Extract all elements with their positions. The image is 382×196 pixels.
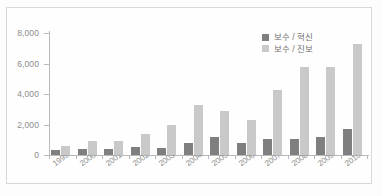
x-axis-tick — [367, 155, 368, 159]
x-axis-tick — [288, 155, 289, 159]
dark-gray-swatch-icon — [262, 34, 269, 41]
plot-area — [49, 33, 367, 155]
x-axis-tick — [155, 155, 156, 159]
y-axis-tick-label: 8,000 — [17, 28, 39, 38]
bar-dark — [157, 148, 166, 155]
bar-dark — [290, 139, 299, 155]
bar-light — [141, 134, 150, 155]
legend-item-light: 보수 / 진보 — [262, 45, 313, 54]
y-axis-tick-label: 2,000 — [17, 120, 39, 130]
legend-item-dark: 보수 / 혁신 — [262, 33, 313, 42]
bar-light — [61, 146, 70, 155]
bar-light — [326, 67, 335, 155]
bar-group — [341, 33, 368, 155]
bar-group — [129, 33, 156, 155]
bar-dark — [263, 139, 272, 155]
bar-light — [220, 111, 229, 155]
bar-light — [273, 90, 282, 155]
x-axis-tick — [129, 155, 130, 159]
bar-light — [247, 120, 256, 155]
bar-dark — [343, 129, 352, 155]
bar-light — [300, 67, 309, 155]
bar-group — [49, 33, 76, 155]
bar-light — [353, 44, 362, 155]
bar-light — [194, 105, 203, 155]
bar-group — [102, 33, 129, 155]
bar-dark — [78, 149, 87, 155]
bar-dark — [210, 137, 219, 155]
x-axis-tick — [261, 155, 262, 159]
bar-chart-figure: 02,0004,0006,0008,000 199920002001200220… — [0, 0, 382, 196]
x-axis-tick — [235, 155, 236, 159]
light-gray-swatch-icon — [262, 45, 269, 52]
bar-group — [155, 33, 182, 155]
x-axis-tick — [76, 155, 77, 159]
bar-light — [167, 125, 176, 155]
x-axis-tick — [208, 155, 209, 159]
legend-label-dark: 보수 / 혁신 — [274, 33, 313, 42]
x-axis-tick — [341, 155, 342, 159]
bar-group — [235, 33, 262, 155]
bar-dark — [104, 149, 113, 155]
bar-light — [114, 141, 123, 155]
x-axis-tick — [314, 155, 315, 159]
x-axis-tick — [102, 155, 103, 159]
y-axis-tick-label: 0 — [34, 150, 39, 160]
x-axis-tick — [49, 155, 50, 159]
bar-dark — [51, 150, 60, 155]
bar-group — [314, 33, 341, 155]
bar-group — [182, 33, 209, 155]
bar-dark — [316, 137, 325, 155]
x-axis-tick — [182, 155, 183, 159]
bar-group — [208, 33, 235, 155]
bar-group — [76, 33, 103, 155]
bar-dark — [131, 147, 140, 155]
chart-legend: 보수 / 혁신 보수 / 진보 — [262, 33, 313, 56]
bar-dark — [184, 143, 193, 155]
legend-label-light: 보수 / 진보 — [274, 45, 313, 54]
bar-dark — [237, 143, 246, 155]
y-axis-tick-label: 6,000 — [17, 59, 39, 69]
y-axis-tick-label: 4,000 — [17, 89, 39, 99]
bar-light — [88, 141, 97, 155]
